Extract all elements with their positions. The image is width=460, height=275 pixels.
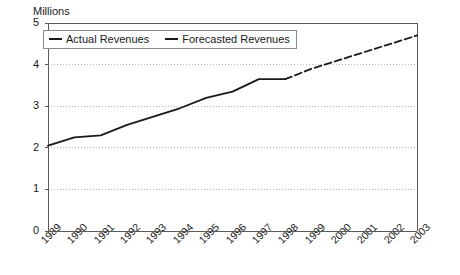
legend-label-actual: Actual Revenues [66,33,149,45]
chart-legend: Actual Revenues Forecasted Revenues [43,30,297,49]
legend-entry-actual: Actual Revenues [49,33,149,45]
series-line-actual-revenues [48,79,285,146]
legend-entry-forecasted: Forecasted Revenues [165,33,290,45]
plot-frame [45,23,417,231]
revenue-line-chart: Millions 012345 198919901991199219931994… [0,0,460,275]
series-line-forecasted-revenues [285,35,417,79]
legend-label-forecasted: Forecasted Revenues [182,33,290,45]
legend-line-icon-forecasted [165,38,178,40]
legend-line-icon-actual [49,38,62,40]
data-series-layer [48,35,417,145]
gridlines [48,65,417,190]
